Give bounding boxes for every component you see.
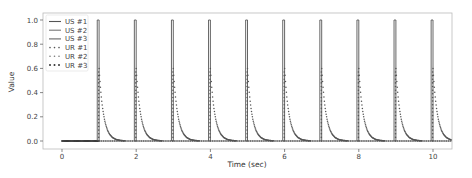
legend-dot-icon bbox=[58, 47, 60, 49]
x-tick-label: 0 bbox=[60, 153, 64, 161]
legend-label: UR #2 bbox=[65, 53, 88, 61]
y-tick-label: 0.0 bbox=[27, 138, 38, 146]
legend-label: UR #3 bbox=[65, 62, 88, 70]
legend-label: US #3 bbox=[65, 35, 87, 43]
legend-dot-icon bbox=[54, 64, 56, 66]
x-tick-label: 4 bbox=[208, 153, 213, 161]
legend-label: UR #1 bbox=[65, 44, 88, 52]
legend-dot-icon bbox=[49, 64, 51, 66]
legend-label: US #2 bbox=[65, 27, 87, 35]
y-axis-label: Value bbox=[7, 71, 16, 92]
x-tick-label: 6 bbox=[282, 153, 287, 161]
plot-area bbox=[61, 20, 459, 142]
x-tick-label: 8 bbox=[357, 153, 361, 161]
legend-dot-icon bbox=[58, 64, 60, 66]
legend-dot-icon bbox=[49, 56, 51, 58]
y-axis-ticks: 0.00.20.40.60.81.0 bbox=[27, 17, 43, 146]
legend-dot-icon bbox=[54, 56, 56, 58]
x-tick-label: 10 bbox=[429, 153, 438, 161]
legend-dot-icon bbox=[54, 47, 56, 49]
x-tick-label: 2 bbox=[134, 153, 138, 161]
line-chart: 0246810 0.00.20.40.60.81.0 Time (sec) Va… bbox=[0, 0, 472, 178]
y-tick-label: 0.2 bbox=[27, 113, 38, 121]
y-tick-label: 0.8 bbox=[27, 41, 38, 49]
y-tick-label: 1.0 bbox=[27, 17, 38, 25]
x-axis-label: Time (sec) bbox=[226, 160, 266, 169]
legend: US #1US #2US #3UR #1UR #2UR #3 bbox=[46, 15, 88, 71]
legend-label: US #1 bbox=[65, 18, 87, 26]
y-tick-label: 0.4 bbox=[27, 89, 39, 97]
legend-dot-icon bbox=[58, 56, 60, 58]
legend-dot-icon bbox=[49, 47, 51, 49]
y-tick-label: 0.6 bbox=[27, 65, 39, 73]
